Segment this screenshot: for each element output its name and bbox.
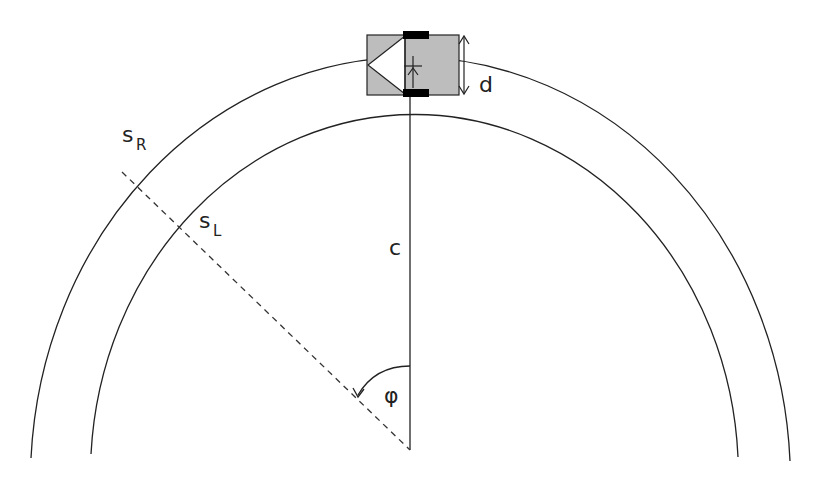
robot [367, 31, 459, 97]
right-wheel [403, 31, 429, 39]
label-s-r-subscript: R [136, 136, 146, 154]
label-s-l: s [199, 208, 210, 233]
label-s-l-subscript: L [213, 222, 222, 240]
dashed-radial-line [122, 172, 410, 450]
label-d: d [479, 72, 493, 97]
label-phi: φ [384, 383, 399, 408]
label-s-r: s [122, 122, 133, 147]
diagram-canvas: d c φ s R s L [0, 0, 832, 480]
left-wheel [403, 89, 429, 97]
inner-arc-s-l [91, 114, 738, 457]
label-c: c [389, 235, 401, 260]
